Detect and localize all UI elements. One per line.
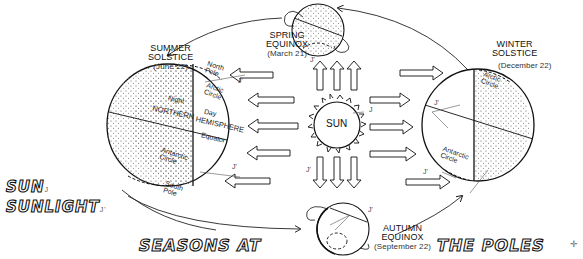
title-the-poles: THE POLES	[437, 236, 545, 255]
j-prime-mark-side-sunlight: J'	[100, 206, 107, 213]
autumn-equinox-label: AUTUMN EQUINOX (September 22)	[374, 224, 431, 251]
side-word-sun-text: SUN	[6, 178, 45, 196]
j-prime-mark-summer-bottom: J'	[232, 163, 237, 170]
side-word-sun: SUNJ	[6, 178, 49, 196]
j-prime-mark-summer-top: J'	[238, 77, 243, 84]
winter-name-line2: SOLSTICE	[492, 49, 537, 58]
sun-label: SUN	[326, 119, 347, 130]
winter-solstice-label: WINTER SOLSTICE	[492, 40, 537, 59]
autumn-date: (September 22)	[374, 243, 431, 251]
spring-equinox-label: SPRING EQUINOX (March 21)	[266, 31, 308, 58]
j-prime-mark-spring: J'	[310, 56, 315, 63]
j-prime-mark-autumn: J'	[368, 206, 373, 213]
j-mark-sun: J	[369, 106, 373, 113]
j-prime-mark-winter-mid: J'	[434, 99, 439, 106]
j-prime-mark-down-arrows: J'	[306, 166, 311, 173]
winter-globe	[422, 69, 534, 181]
spring-date: (March 21)	[266, 50, 308, 58]
summer-solstice-label: SUMMER SOLSTICE (June 22)	[148, 44, 193, 71]
title-seasons-at: SEASONS AT	[139, 236, 261, 255]
j-prime-mark-winter-bottom: J'	[423, 168, 428, 175]
seasons-diagram: SUMMER SOLSTICE (June 22) SPRING EQUINOX…	[0, 0, 583, 259]
sparkle-icon: ✛	[570, 240, 578, 249]
autumn-globe	[307, 203, 369, 255]
j-mark-side-sun: J	[45, 186, 50, 193]
winter-date: (December 22)	[498, 62, 551, 70]
summer-date: (June 22)	[148, 63, 193, 71]
side-word-sunlight: SUNLIGHTJ'	[6, 198, 107, 216]
side-word-sunlight-text: SUNLIGHT	[6, 198, 100, 216]
